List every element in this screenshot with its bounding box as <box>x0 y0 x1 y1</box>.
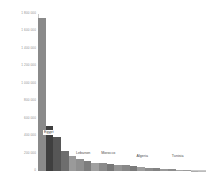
y-tick-label: 200 000 <box>24 152 36 155</box>
bar <box>69 156 77 171</box>
y-tick-label: 1 800 000 <box>21 12 36 15</box>
bar <box>76 159 84 171</box>
bar-series <box>38 14 206 171</box>
y-tick-label: 1 600 000 <box>21 30 36 33</box>
y-axis-tick-labels: 1 800 0001 600 0001 400 0001 200 0001 00… <box>0 14 36 171</box>
bar-chart: 1 800 0001 600 0001 400 0001 200 0001 00… <box>0 0 213 185</box>
bar-callout-label: Morocco <box>100 150 116 155</box>
bar <box>84 161 92 171</box>
bar <box>153 168 161 171</box>
bar-callout-label: Algeria <box>135 153 149 158</box>
bar <box>53 137 61 171</box>
bar <box>130 166 138 171</box>
bar <box>61 151 69 171</box>
bar <box>99 163 107 171</box>
bar-callout-label: Tunisia <box>171 153 185 158</box>
bar <box>122 165 130 171</box>
y-tick-label: 0 <box>34 169 36 172</box>
bar <box>107 164 115 171</box>
bar <box>160 169 168 171</box>
bar-callout-label: Lebanon <box>75 150 91 155</box>
bar <box>38 18 46 172</box>
bar <box>91 163 99 171</box>
bar <box>168 169 176 171</box>
bar <box>176 170 184 171</box>
bar <box>114 165 122 171</box>
y-tick-label: 600 000 <box>24 117 36 120</box>
y-tick-label: 800 000 <box>24 100 36 103</box>
bar-callout-label: Egypt <box>43 130 54 135</box>
bar <box>145 168 153 171</box>
plot-area: EgyptLebanonMoroccoAlgeriaTunisia <box>38 14 206 171</box>
y-tick-label: 1 200 000 <box>21 65 36 68</box>
bar <box>137 167 145 171</box>
y-tick-label: 1 400 000 <box>21 47 36 50</box>
y-tick-label: 1 000 000 <box>21 82 36 85</box>
bar <box>183 170 191 171</box>
y-tick-label: 400 000 <box>24 134 36 137</box>
